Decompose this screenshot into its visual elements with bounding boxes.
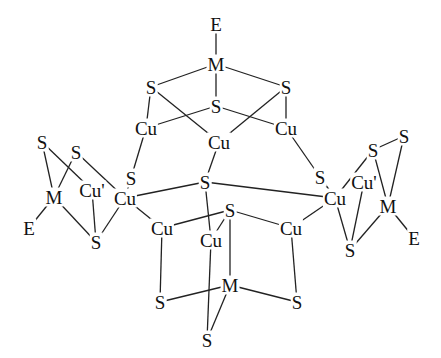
- atom-s8: S: [199, 173, 212, 192]
- chemical-structure-diagram: EMSSSCuCuCuSSCu'MESSCuSSCuSSCu'MESCuCuSC…: [0, 0, 441, 358]
- atom-e2: E: [22, 219, 36, 238]
- atom-e3: E: [407, 229, 421, 248]
- atom-s2: S: [280, 78, 293, 97]
- atom-s3: S: [210, 97, 223, 116]
- atom-cu8: Cu: [150, 219, 174, 238]
- atom-cu4: Cu': [78, 181, 106, 200]
- atom-s16: S: [201, 331, 214, 350]
- atom-s12: S: [344, 241, 357, 260]
- atom-cu1: Cu: [134, 119, 158, 138]
- atom-s4: S: [36, 133, 49, 152]
- atom-cu9: Cu: [199, 231, 223, 250]
- atom-cu7: Cu': [350, 173, 378, 192]
- atom-m4: M: [221, 276, 240, 295]
- atom-m3: M: [379, 197, 398, 216]
- atom-s9: S: [314, 168, 327, 187]
- atom-s6: S: [90, 233, 103, 252]
- atom-s10: S: [367, 141, 380, 160]
- atom-s1: S: [145, 78, 158, 97]
- atom-cu3: Cu: [274, 119, 298, 138]
- atom-s11: S: [398, 127, 411, 146]
- bond-S14-M4: [160, 285, 230, 302]
- atom-s7: S: [125, 169, 138, 188]
- atom-cu5: Cu: [113, 189, 137, 208]
- atom-m1: M: [207, 55, 226, 74]
- atom-s13: S: [224, 201, 237, 220]
- atom-cu2: Cu: [207, 133, 231, 152]
- atom-m2: M: [45, 188, 64, 207]
- atom-s14: S: [154, 293, 167, 312]
- atom-s5: S: [70, 143, 83, 162]
- bond-M1-S2: [216, 64, 286, 87]
- atom-s15: S: [291, 293, 304, 312]
- atom-cu10: Cu: [279, 219, 303, 238]
- atom-cu6: Cu: [323, 189, 347, 208]
- bond-M4-S15: [230, 285, 297, 302]
- atom-e1: E: [209, 15, 223, 34]
